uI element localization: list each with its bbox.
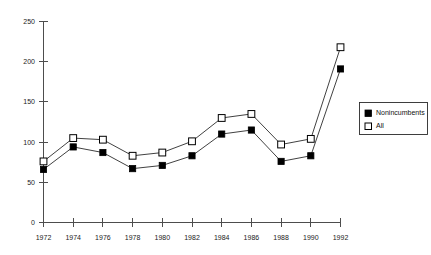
- legend-marker-all-icon: [365, 123, 372, 130]
- x-tick-label: 1978: [125, 234, 141, 241]
- data-point: [278, 141, 285, 148]
- series-layer: [40, 44, 344, 173]
- data-point: [189, 153, 195, 159]
- x-axis-labels: 1972 1974 1976 1978 1980 1982 1984 1986 …: [36, 234, 349, 241]
- data-point: [248, 127, 254, 133]
- data-point: [70, 135, 77, 142]
- data-point: [248, 111, 255, 118]
- data-point: [130, 166, 136, 172]
- x-tick-label: 1992: [333, 234, 349, 241]
- y-tick-label: 150: [23, 98, 35, 105]
- legend-label-nonincumbents: Nonincumbents: [376, 109, 425, 116]
- data-point: [40, 166, 46, 172]
- data-point: [100, 136, 107, 143]
- x-tick-label: 1972: [36, 234, 52, 241]
- x-tick-label: 1976: [95, 234, 111, 241]
- y-tick-label: 250: [23, 18, 35, 25]
- data-point: [100, 149, 106, 155]
- chart-legend: Nonincumbents All: [360, 103, 428, 135]
- legend-marker-nonincumbents-icon: [365, 110, 372, 117]
- x-tick-label: 1980: [155, 234, 171, 241]
- y-tick-label: 100: [23, 139, 35, 146]
- data-point: [337, 44, 344, 51]
- line-chart: 250 200 150 100 50 0 1972 1974 1976 1: [0, 0, 431, 255]
- chart-canvas: 250 200 150 100 50 0 1972 1974 1976 1: [0, 0, 431, 255]
- data-point: [219, 131, 225, 137]
- data-point: [218, 115, 225, 122]
- y-axis-labels: 250 200 150 100 50 0: [23, 18, 35, 226]
- series-all: [40, 44, 344, 165]
- legend-label-all: All: [376, 122, 384, 129]
- x-tick-label: 1988: [273, 234, 289, 241]
- data-point: [159, 162, 165, 168]
- y-tick-label: 200: [23, 58, 35, 65]
- x-tick-label: 1986: [244, 234, 260, 241]
- data-point: [278, 158, 284, 164]
- data-point: [337, 66, 343, 72]
- data-point: [189, 138, 196, 145]
- data-point: [308, 153, 314, 159]
- y-tick-label: 50: [27, 179, 35, 186]
- series-nonincumbents: [40, 66, 343, 173]
- y-tick-label: 0: [31, 219, 35, 226]
- data-point: [307, 135, 314, 142]
- data-point: [40, 158, 47, 165]
- data-point: [70, 144, 76, 150]
- x-tick-label: 1984: [214, 234, 230, 241]
- data-point: [159, 149, 166, 156]
- data-point: [129, 152, 136, 159]
- x-tick-label: 1990: [303, 234, 319, 241]
- x-tick-label: 1974: [65, 234, 81, 241]
- x-tick-label: 1982: [184, 234, 200, 241]
